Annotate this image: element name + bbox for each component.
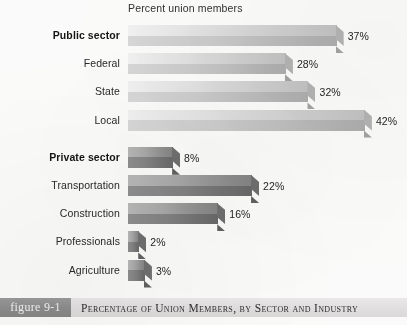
bar-row: Professionals2%: [0, 228, 407, 254]
figure-panel: Percent union members Public sector37%Fe…: [0, 0, 407, 325]
bar-end-cap: [307, 81, 315, 109]
bar-category-label: State: [0, 78, 120, 104]
bar-front-face: [128, 214, 218, 225]
bar-value-label: 37%: [348, 22, 369, 48]
bar-end-cap: [364, 110, 372, 138]
bar-top-face: [128, 175, 252, 186]
bar-row: Local42%: [0, 107, 407, 133]
bar-value-label: 3%: [156, 257, 171, 283]
bar-top-face: [128, 260, 145, 271]
bar: [128, 260, 145, 281]
bar-category-label: Local: [0, 107, 120, 133]
bar-row: Transportation22%: [0, 172, 407, 198]
bar-row: Construction16%: [0, 200, 407, 226]
bar-front-face: [128, 64, 286, 75]
bar-end-cap: [285, 53, 293, 81]
bar-top-face: [128, 25, 337, 36]
bar-front-face: [128, 186, 252, 197]
bar-category-label: Transportation: [0, 172, 120, 198]
bar-category-label: Agriculture: [0, 257, 120, 283]
bar-end-cap: [336, 25, 344, 53]
bar-top-face: [128, 147, 173, 158]
bar-cap-top-face: [307, 81, 315, 102]
bar-value-label: 8%: [184, 144, 199, 170]
bar-cap-top-face: [285, 53, 293, 74]
bar-top-face: [128, 53, 286, 64]
bar-end-cap: [217, 203, 225, 231]
bar: [128, 203, 218, 224]
bar-cap-top-face: [251, 175, 259, 196]
bar-row: Agriculture3%: [0, 257, 407, 283]
bar-chart-plot-area: Public sector37%Federal28%State32%Local4…: [0, 22, 407, 292]
bar-end-cap: [144, 260, 152, 288]
bar-end-cap: [138, 231, 146, 259]
figure-caption-text: Percentage of Union Members, by Sector a…: [81, 302, 358, 314]
bar-value-label: 22%: [263, 172, 284, 198]
bar-value-label: 42%: [376, 107, 397, 133]
figure-caption-bar: figure 9-1 Percentage of Union Members, …: [0, 298, 407, 317]
bar-category-label: Construction: [0, 200, 120, 226]
bar: [128, 81, 308, 102]
bar-value-label: 28%: [297, 50, 318, 76]
bar-value-label: 16%: [229, 200, 250, 226]
bar-cap-top-face: [336, 25, 344, 46]
bar-top-face: [128, 110, 365, 121]
bar-front-face: [128, 120, 365, 131]
bar: [128, 231, 139, 252]
bar: [128, 53, 286, 74]
bar: [128, 110, 365, 131]
bar: [128, 175, 252, 196]
bar-cap-top-face: [217, 203, 225, 224]
bar-row: Private sector8%: [0, 144, 407, 170]
bar-category-label: Private sector: [0, 144, 120, 170]
bar-category-label: Professionals: [0, 228, 120, 254]
chart-title: Percent union members: [128, 2, 243, 14]
bar-front-face: [128, 36, 337, 47]
bar-front-face: [128, 157, 173, 168]
bar-top-face: [128, 81, 308, 92]
bar: [128, 25, 337, 46]
bar-end-cap: [251, 175, 259, 203]
bar-front-face: [128, 92, 308, 103]
bar: [128, 147, 173, 168]
bar-row: Public sector37%: [0, 22, 407, 48]
bar-category-label: Public sector: [0, 22, 120, 48]
bar-row: State32%: [0, 78, 407, 104]
bar-cap-top-face: [172, 147, 180, 168]
bar-front-face: [128, 270, 145, 281]
bar-category-label: Federal: [0, 50, 120, 76]
bar-cap-top-face: [138, 231, 146, 252]
bar-end-cap: [172, 147, 180, 175]
bar-row: Federal28%: [0, 50, 407, 76]
bar-cap-top-face: [144, 260, 152, 281]
figure-number-tag: figure 9-1: [0, 298, 71, 317]
bar-value-label: 2%: [150, 228, 165, 254]
bar-top-face: [128, 203, 218, 214]
bar-value-label: 32%: [319, 78, 340, 104]
bar-cap-top-face: [364, 110, 372, 131]
